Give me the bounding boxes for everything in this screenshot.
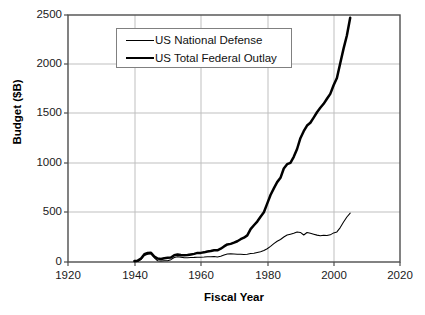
thin-line-swatch-icon [126, 35, 154, 45]
x-tick-2000: 2000 [304, 269, 364, 283]
legend-item-us-national-defense: US National Defense [117, 30, 293, 50]
legend-label-0: US National Defense [155, 34, 262, 46]
x-tick-1920: 1920 [38, 269, 98, 283]
y-tick-1000: 1000 [18, 157, 62, 169]
x-tick-2020: 2020 [370, 269, 425, 283]
y-tick-1500: 1500 [18, 107, 62, 119]
legend-label-1: US Total Federal Outlay [155, 52, 277, 64]
y-tick-2000: 2000 [18, 58, 62, 70]
x-tick-1980: 1980 [238, 269, 298, 283]
x-axis-title: Fiscal Year [68, 291, 400, 303]
legend-item-us-total-federal-outlay: US Total Federal Outlay [117, 48, 293, 68]
y-tick-0: 0 [18, 256, 62, 268]
y-tick-500: 500 [18, 206, 62, 218]
chart-figure: 2500 2000 1500 1000 500 0 1920 1940 1960… [0, 0, 425, 315]
y-axis-title: Budget ($B) [11, 57, 23, 167]
thick-line-swatch-icon [126, 53, 154, 63]
y-tick-2500: 2500 [18, 9, 62, 21]
x-tick-1940: 1940 [105, 269, 165, 283]
x-tick-1960: 1960 [171, 269, 231, 283]
chart-legend: US National Defense US Total Federal Out… [116, 28, 292, 68]
